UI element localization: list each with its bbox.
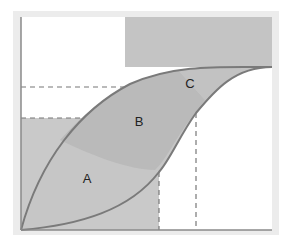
diagram-container: A B C [0,0,292,247]
diagram-canvas: A B C [0,0,292,247]
region-label-a: A [83,171,92,186]
region-label-c: C [185,76,194,91]
top-right-shaded-rect [125,17,272,67]
region-label-b: B [135,114,144,129]
